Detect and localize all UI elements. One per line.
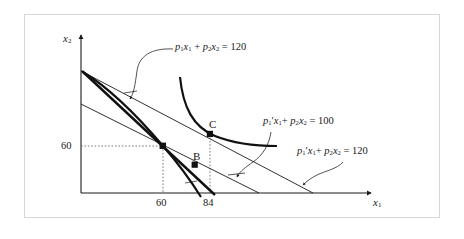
budget-line-new-price-120 [81, 71, 313, 193]
annotation-budget-original: p1x1 + p2x2 = 120 [175, 42, 246, 53]
point-marker-c [207, 131, 213, 137]
x-tick-label-60: 60 [156, 198, 167, 209]
x-axis-label: x1 [373, 197, 381, 209]
budget-line-original-120 [82, 71, 215, 195]
annotation-budget-compensated: p1′x1+ p2x2 = 100 [263, 116, 334, 127]
y-axis-label: x2 [63, 33, 71, 45]
figure-frame: x2 x1 60 60 84 B C p1x1 + p2x2 = 120 p1′… [24, 14, 440, 218]
annotation-budget-new: p1′x1+ p2x2 = 120 [297, 146, 368, 157]
leader-line-budget-compensated [237, 132, 271, 177]
x-tick-label-84: 84 [203, 198, 214, 209]
leader-line-budget-new [303, 162, 343, 185]
leader-tick-compensated [228, 173, 245, 175]
leader-tick-original [124, 91, 137, 93]
figure-root: x2 x1 60 60 84 B C p1x1 + p2x2 = 120 p1′… [0, 0, 464, 239]
point-marker-b [192, 162, 198, 168]
y-tick-label-60: 60 [61, 141, 72, 152]
point-label-b: B [193, 151, 200, 162]
guide-lines-point-a [81, 146, 163, 193]
point-label-c: C [209, 119, 216, 130]
leader-line-budget-original [130, 49, 173, 99]
point-marker-a [160, 143, 166, 149]
indifference-curve-high [180, 77, 277, 146]
